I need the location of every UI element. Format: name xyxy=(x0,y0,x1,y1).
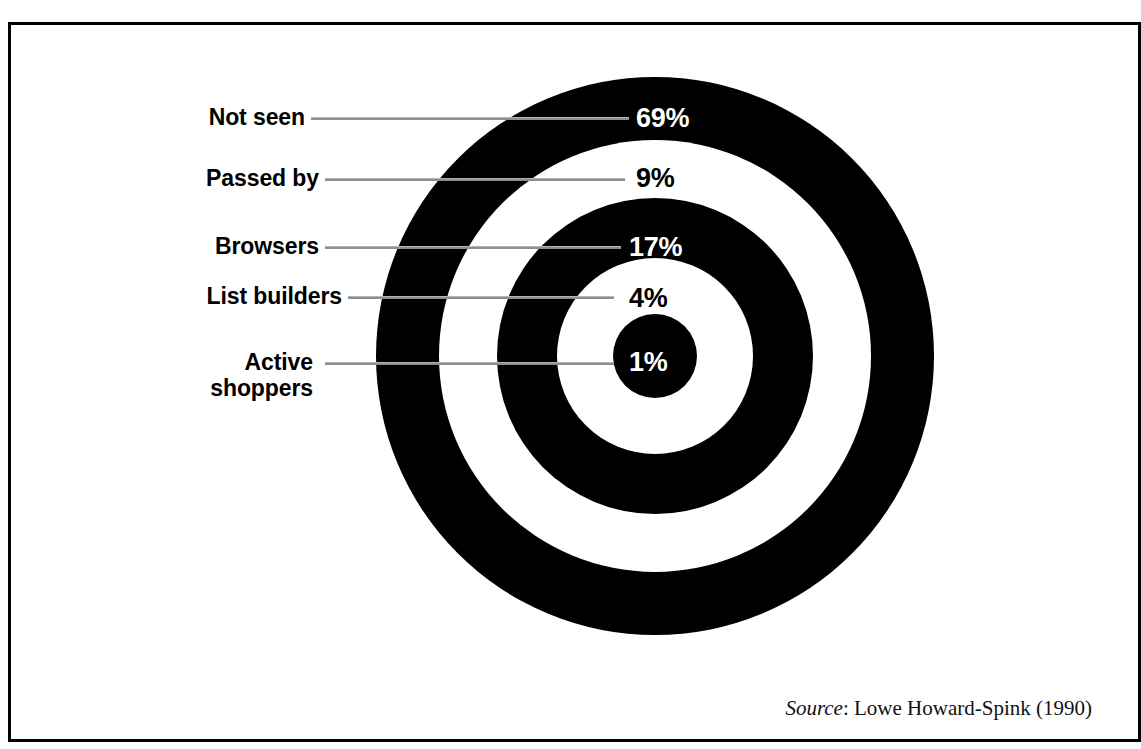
leader-line-list-builders xyxy=(348,296,614,299)
source-note: Source: Lowe Howard-Spink (1990) xyxy=(785,696,1092,721)
source-label: Source xyxy=(785,696,843,720)
source-text: Lowe Howard-Spink (1990) xyxy=(854,696,1092,720)
leader-line-active-shoppers xyxy=(325,362,614,365)
category-label-active-shoppers: Activeshoppers xyxy=(123,349,313,401)
category-label-browsers: Browsers xyxy=(123,233,319,259)
leader-line-passed-by xyxy=(325,178,625,181)
leader-line-not-seen xyxy=(311,117,629,120)
value-label-list-builders: 4% xyxy=(629,283,667,314)
category-label-passed-by: Passed by xyxy=(123,165,319,191)
value-label-browsers: 17% xyxy=(629,232,682,263)
value-label-passed-by: 9% xyxy=(636,163,674,194)
value-label-active-shoppers: 1% xyxy=(629,347,667,378)
category-label-not-seen: Not seen xyxy=(109,104,305,130)
source-separator: : xyxy=(843,696,854,720)
leader-line-browsers xyxy=(325,246,621,249)
category-label-list-builders: List builders xyxy=(146,283,342,309)
value-label-not-seen: 69% xyxy=(636,103,689,134)
